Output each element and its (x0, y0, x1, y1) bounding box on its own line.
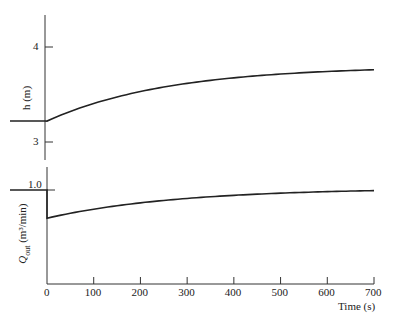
x-tick-label: 300 (178, 286, 195, 298)
x-tick-label: 400 (225, 286, 242, 298)
x-tick-label: 600 (318, 286, 335, 298)
chart-canvas (0, 0, 394, 324)
q-curve (10, 190, 374, 218)
h-tick-label-4: 4 (33, 40, 39, 52)
x-tick-label: 500 (272, 286, 289, 298)
x-ticks (94, 277, 374, 284)
x-tick-label: 100 (85, 286, 102, 298)
h-axis-label: h (m) (20, 78, 32, 118)
x-tick-label: 0 (44, 286, 50, 298)
h-tick-label-3: 3 (33, 135, 39, 147)
h-curve (10, 70, 374, 121)
x-tick-label: 200 (131, 286, 148, 298)
x-tick-label: 700 (365, 286, 382, 298)
q-axis-label: Qout (m³/min) (16, 184, 31, 284)
x-axis-title: Time (s) (338, 300, 375, 312)
